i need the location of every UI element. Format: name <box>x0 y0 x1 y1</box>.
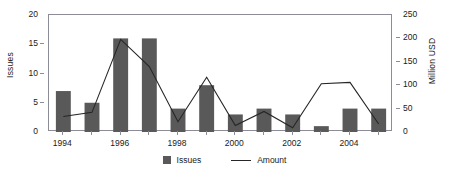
y-right-tick-0: 0 <box>403 127 408 136</box>
y-right-tickmark-50 <box>396 108 400 109</box>
x-tick-label-2002: 2002 <box>282 138 301 148</box>
x-axis: 199419961998200020022004 <box>48 131 392 153</box>
x-tick-label-1996: 1996 <box>110 138 129 148</box>
y-left-tick-15: 15 <box>29 39 38 48</box>
amount-line-series <box>63 39 378 127</box>
x-tickmark-1998 <box>177 131 178 135</box>
legend-label-amount: Amount <box>257 155 286 165</box>
bar-2004 <box>343 109 358 132</box>
chart-figure: Issues Million USD 05101520 050100150200… <box>0 0 449 179</box>
y-right-tick-200: 200 <box>403 33 417 42</box>
y-right-tick-50: 50 <box>403 103 412 112</box>
x-tickmark-2005 <box>378 131 379 135</box>
bar-1997 <box>142 38 157 132</box>
square-swatch-icon <box>163 156 171 164</box>
y-left-tickmark-15 <box>40 43 44 44</box>
chart-legend: Issues Amount <box>0 155 449 165</box>
legend-entry-amount: Amount <box>231 155 286 165</box>
bar-1994 <box>56 91 71 132</box>
issues-bar-series <box>56 38 386 132</box>
x-tick-label-2000: 2000 <box>225 138 244 148</box>
y-right-tick-100: 100 <box>403 80 417 89</box>
x-tickmark-2004 <box>349 131 350 135</box>
bar-1995 <box>85 103 100 132</box>
y-left-tickmark-10 <box>40 73 44 74</box>
y-axis-right-ticks: 050100150200250 <box>396 14 436 131</box>
y-right-tickmark-200 <box>396 37 400 38</box>
y-right-tick-250: 250 <box>403 10 417 19</box>
y-left-tick-5: 5 <box>33 98 38 107</box>
bar-2005 <box>371 109 386 132</box>
line-swatch-icon <box>231 160 251 161</box>
legend-entry-issues: Issues <box>163 155 202 165</box>
series-layer <box>49 15 393 132</box>
y-left-tick-0: 0 <box>33 127 38 136</box>
bar-1999 <box>199 85 214 132</box>
y-right-tickmark-100 <box>396 84 400 85</box>
legend-label-issues: Issues <box>177 155 202 165</box>
x-tickmark-1995 <box>91 131 92 135</box>
x-tickmark-1996 <box>120 131 121 135</box>
x-tickmark-2000 <box>234 131 235 135</box>
x-tickmark-1999 <box>206 131 207 135</box>
y-right-tickmark-150 <box>396 61 400 62</box>
y-axis-left-ticks: 05101520 <box>4 14 44 131</box>
x-tickmark-2003 <box>320 131 321 135</box>
y-right-tick-150: 150 <box>403 57 417 66</box>
x-tickmark-1997 <box>148 131 149 135</box>
bar-2001 <box>257 109 272 132</box>
x-tick-label-1994: 1994 <box>53 138 72 148</box>
plot-area <box>48 14 392 131</box>
y-left-tick-10: 10 <box>29 68 38 77</box>
x-tickmark-2001 <box>263 131 264 135</box>
x-tickmark-1994 <box>62 131 63 135</box>
y-left-tick-20: 20 <box>29 10 38 19</box>
x-tick-label-2004: 2004 <box>340 138 359 148</box>
bar-2002 <box>285 114 300 132</box>
x-tickmark-2002 <box>292 131 293 135</box>
x-tick-label-1998: 1998 <box>168 138 187 148</box>
y-left-tickmark-5 <box>40 102 44 103</box>
